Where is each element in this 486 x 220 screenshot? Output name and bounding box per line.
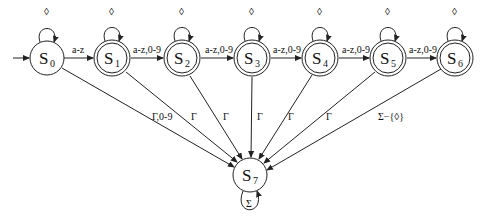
svg-text:Γ,0-9: Γ,0-9 [152, 111, 172, 122]
state-s6: S 6 [437, 40, 473, 76]
state-s2: S 2 [164, 40, 200, 76]
svg-text:◊: ◊ [249, 6, 254, 17]
svg-text:Σ: Σ [246, 198, 252, 209]
svg-text:4: 4 [323, 58, 328, 69]
loop-s3 [244, 28, 260, 42]
state-s3: S 3 [234, 40, 270, 76]
edge-s4-s7 [259, 75, 312, 159]
svg-text:Σ−{◊}: Σ−{◊} [378, 111, 404, 122]
svg-text:Γ: Γ [191, 111, 197, 122]
svg-text:◊: ◊ [109, 6, 114, 17]
svg-text:5: 5 [391, 58, 396, 69]
svg-text:S: S [174, 49, 183, 68]
svg-text:a-z,0-9: a-z,0-9 [133, 44, 161, 55]
loop-s1 [104, 28, 120, 42]
svg-text:0: 0 [50, 58, 55, 69]
state-diagram: S 0 S 1 S 2 S 3 S 4 S 5 S 6 S 7 [0, 0, 486, 220]
svg-text:7: 7 [253, 175, 258, 186]
state-s1: S 1 [94, 40, 130, 76]
svg-text:a-z,0-9: a-z,0-9 [342, 44, 370, 55]
loop-s0 [39, 29, 55, 43]
state-s4: S 4 [302, 40, 338, 76]
svg-text:S: S [39, 49, 48, 68]
loop-s2 [174, 28, 190, 42]
edge-s0-s7 [62, 68, 234, 167]
svg-text:◊: ◊ [179, 6, 184, 17]
loop-s5 [380, 28, 396, 42]
svg-text:S: S [244, 49, 253, 68]
svg-text:◊: ◊ [452, 6, 457, 17]
svg-text:1: 1 [115, 58, 120, 69]
svg-text:S: S [312, 49, 321, 68]
svg-text:S: S [242, 166, 251, 185]
svg-text:a-z,0-9: a-z,0-9 [409, 44, 437, 55]
svg-text:2: 2 [185, 58, 190, 69]
state-s5: S 5 [370, 40, 406, 76]
svg-text:3: 3 [255, 58, 260, 69]
svg-text:a-z,0-9: a-z,0-9 [273, 44, 301, 55]
edge-s3-s7 [251, 77, 252, 157]
state-s7: S 7 [233, 158, 267, 192]
svg-text:6: 6 [458, 58, 463, 69]
svg-text:S: S [380, 49, 389, 68]
edge-s1-s7 [126, 72, 237, 162]
svg-text:S: S [104, 49, 113, 68]
svg-text:Γ: Γ [326, 111, 332, 122]
svg-text:Γ: Γ [257, 111, 263, 122]
svg-text:S: S [447, 49, 456, 68]
svg-text:◊: ◊ [317, 6, 322, 17]
loop-s4 [312, 28, 328, 42]
svg-text:a-z: a-z [72, 44, 85, 55]
svg-text:◊: ◊ [385, 6, 390, 17]
svg-text:Γ: Γ [288, 111, 294, 122]
state-s0: S 0 [30, 41, 64, 75]
loop-s6 [447, 28, 463, 42]
svg-text:Γ: Γ [223, 111, 229, 122]
svg-text:a-z,0-9: a-z,0-9 [205, 44, 233, 55]
svg-text:◊: ◊ [44, 6, 49, 17]
